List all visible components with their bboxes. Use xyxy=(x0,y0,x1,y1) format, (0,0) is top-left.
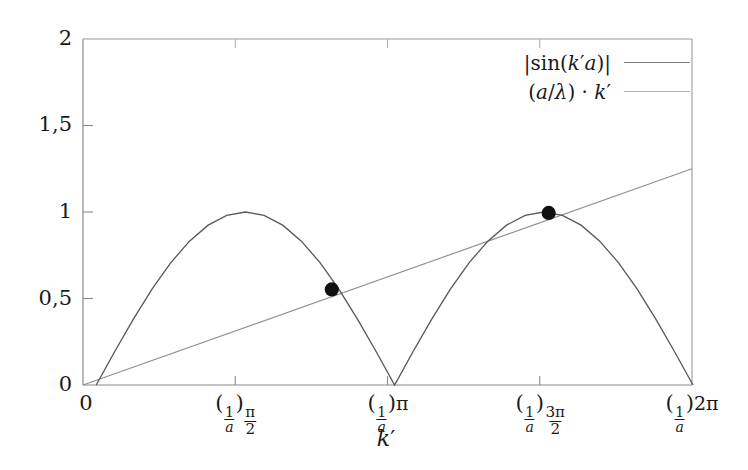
axis-title-prime: ′ xyxy=(390,426,395,451)
legend-label-linear: (a/λ) · k′ xyxy=(528,82,611,102)
axis-title-k: k xyxy=(377,426,390,451)
k-symbol: k xyxy=(594,80,606,104)
slash-symbol: / xyxy=(548,80,555,104)
paren-close: ) xyxy=(536,390,544,415)
x-axis-title: k′ xyxy=(377,428,395,450)
paren-open: ( xyxy=(560,51,568,75)
legend-entry-linear: (a/λ) · k′ xyxy=(478,77,690,106)
fraction-3pi-over-2: 3π2 xyxy=(544,405,566,437)
fraction-one-over-a: 1a xyxy=(674,405,685,435)
x-tick-label-pi-over-2: (1a)π2 xyxy=(215,392,257,437)
a-symbol: a xyxy=(585,51,597,75)
x-tick-label-2pi: (1a)2π xyxy=(665,392,718,434)
chart-figure: 2 1,5 1 0,5 0 0 (1a)π2 (1a)π (1a)3π2 (1a… xyxy=(0,0,748,470)
paren-open: ( xyxy=(515,390,523,415)
paren-close: ) xyxy=(686,390,694,415)
paren-open: ( xyxy=(665,390,673,415)
legend-label-abs-sine: |sin(k′a)| xyxy=(524,53,611,73)
paren-close: ) xyxy=(388,390,396,415)
paren-close: ) xyxy=(235,390,243,415)
paren-open: ( xyxy=(367,390,375,415)
two-pi-symbol: 2π xyxy=(694,392,719,414)
paren-open: ( xyxy=(215,390,223,415)
x-tick-label-0: 0 xyxy=(79,393,92,414)
pi-symbol: π xyxy=(396,392,409,414)
lambda-symbol: λ xyxy=(555,80,568,104)
fraction-one-over-a: 1a xyxy=(224,405,235,435)
x-tick-text: 0 xyxy=(79,391,92,415)
a-symbol: a xyxy=(536,80,548,104)
legend-entry-abs-sine: |sin(k′a)| xyxy=(478,48,690,77)
k-symbol: k xyxy=(568,51,580,75)
fraction-pi-over-2: π2 xyxy=(244,405,256,437)
chart-legend: |sin(k′a)| (a/λ) · k′ xyxy=(478,48,690,106)
prime-symbol: ′ xyxy=(606,80,611,104)
paren-open: ( xyxy=(528,80,536,104)
fraction-one-over-a: 1a xyxy=(524,405,535,435)
x-tick-label-3pi-over-2: (1a)3π2 xyxy=(515,392,566,437)
dot-operator: · xyxy=(582,80,588,104)
legend-line-sample-abs-sine xyxy=(624,62,690,63)
abs-bar-close: | xyxy=(604,51,611,75)
sin-function-name: sin xyxy=(530,51,560,75)
legend-line-sample-linear xyxy=(624,91,690,92)
paren-close: ) xyxy=(567,80,575,104)
